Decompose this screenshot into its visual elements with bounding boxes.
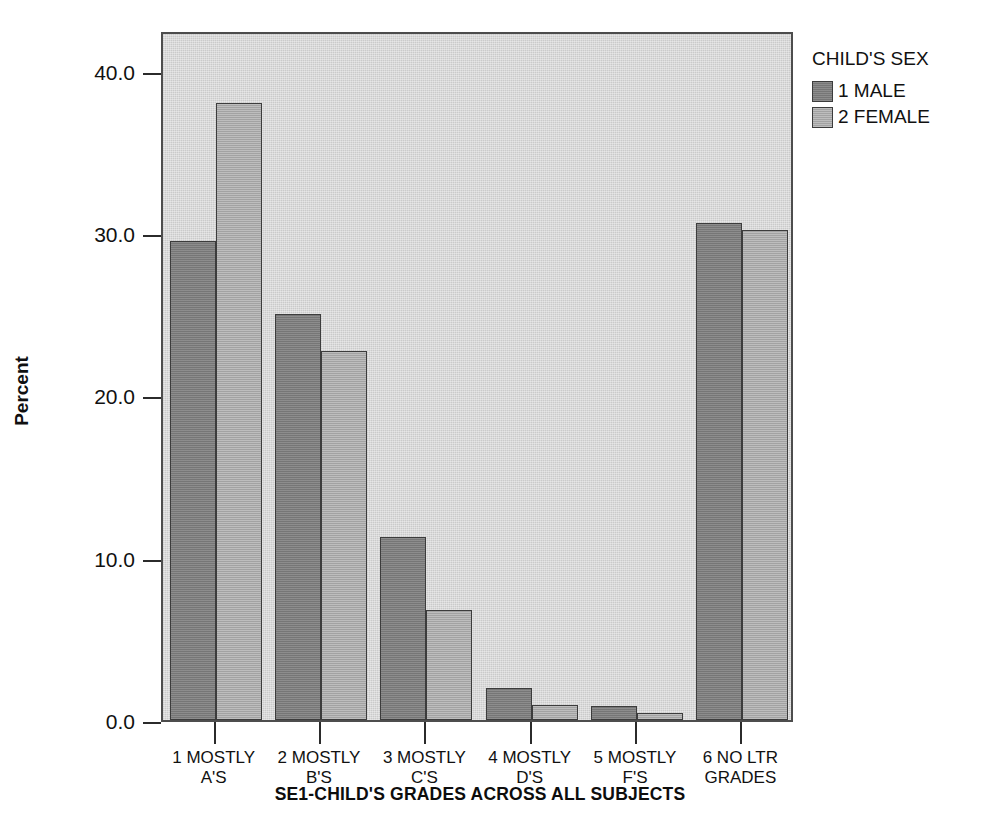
bar-female-group-5 [637, 713, 683, 720]
y-axis-tick [143, 235, 161, 237]
y-axis-tick-label: 40.0 [45, 61, 135, 85]
chart-page: 0.010.020.030.040.0 Percent 1 MOSTLY A'S… [0, 0, 1006, 828]
y-axis-tick [143, 560, 161, 562]
bar-female-group-6 [742, 230, 788, 720]
legend-item-1: 1 MALE [812, 80, 1002, 102]
legend-items: 1 MALE2 FEMALE [812, 80, 1002, 128]
x-axis-tick [635, 722, 637, 744]
bar-female-group-2 [321, 351, 367, 720]
legend-item-label: 2 FEMALE [838, 106, 930, 128]
y-axis-tick-label: 10.0 [45, 548, 135, 572]
x-axis-category-label: 6 NO LTR GRADES [670, 748, 810, 788]
y-axis-tick [143, 73, 161, 75]
legend: CHILD'S SEX 1 MALE2 FEMALE [812, 48, 1002, 132]
legend-item-label: 1 MALE [838, 80, 906, 102]
bar-female-group-3 [426, 610, 472, 720]
legend-swatch-male [812, 81, 833, 102]
x-axis-title: SE1-CHILD'S GRADES ACROSS ALL SUBJECTS [0, 784, 960, 805]
x-axis-tick [319, 722, 321, 744]
bar-female-group-4 [532, 705, 578, 720]
bar-male-group-5 [591, 706, 637, 720]
y-axis-tick [143, 722, 161, 724]
y-axis-tick-label: 30.0 [45, 223, 135, 247]
bar-male-group-4 [486, 688, 532, 720]
bar-female-group-1 [216, 103, 262, 720]
y-axis-tick [143, 397, 161, 399]
legend-swatch-female [812, 107, 833, 128]
plot-area [161, 32, 793, 722]
x-axis-tick [424, 722, 426, 744]
legend-title: CHILD'S SEX [812, 48, 1002, 70]
bar-male-group-1 [170, 241, 216, 720]
bar-male-group-3 [380, 537, 426, 720]
y-axis-title: Percent [11, 356, 33, 426]
x-axis-tick [530, 722, 532, 744]
y-axis-tick-label: 20.0 [45, 385, 135, 409]
legend-item-2: 2 FEMALE [812, 106, 1002, 128]
x-axis-tick [214, 722, 216, 744]
y-axis-tick-label: 0.0 [45, 710, 135, 734]
x-axis-tick [740, 722, 742, 744]
bar-male-group-2 [275, 314, 321, 720]
bar-male-group-6 [696, 223, 742, 720]
